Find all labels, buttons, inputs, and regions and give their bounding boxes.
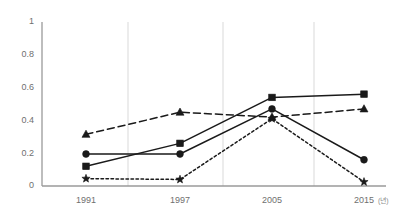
star-marker: [82, 174, 90, 182]
x-axis-unit-note: (년): [378, 196, 389, 205]
circle-marker: [83, 151, 90, 158]
gridlines: [128, 22, 314, 186]
data-series-layer: [82, 91, 368, 186]
y-tick-label: 0.2: [21, 148, 34, 158]
line-chart: 00.20.40.60.81 1991199720052015 (년): [0, 0, 397, 222]
y-tick-label: 1: [29, 16, 34, 26]
chart-canvas: 00.20.40.60.81 1991199720052015 (년): [0, 0, 397, 222]
y-tick-label: 0.6: [21, 82, 34, 92]
y-tick-label: 0: [29, 180, 34, 190]
y-axis-tick-labels: 00.20.40.60.81: [21, 16, 34, 190]
x-axis-unit-note: (년): [378, 196, 389, 205]
x-tick-label: 1991: [76, 195, 96, 205]
star-marker: [176, 175, 184, 183]
x-axis-tick-labels: 1991199720052015: [76, 195, 374, 205]
x-tick-label: 2005: [262, 195, 282, 205]
square-marker: [361, 91, 368, 98]
y-tick-label: 0.8: [21, 49, 34, 59]
square-marker: [177, 140, 184, 147]
series-square: [83, 91, 368, 170]
square-marker: [269, 94, 276, 101]
y-tick-label: 0.4: [21, 115, 34, 125]
circle-marker: [361, 156, 368, 163]
circle-marker: [269, 106, 276, 113]
star-marker: [360, 178, 368, 186]
x-tick-label: 2015: [354, 195, 374, 205]
circle-marker: [177, 151, 184, 158]
square-marker: [83, 163, 90, 170]
triangle-marker: [360, 105, 368, 112]
x-tick-label: 1997: [170, 195, 190, 205]
